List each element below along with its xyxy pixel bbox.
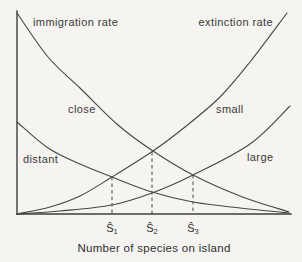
- extinction-small-curve: [17, 13, 287, 214]
- curve-label-small: small: [216, 103, 244, 115]
- island-biogeography-figure: Ŝ1Ŝ2Ŝ3 immigration rate extinction rate …: [0, 0, 302, 262]
- x-axis-caption: Number of species on island: [77, 242, 230, 254]
- immigration-rate-label: immigration rate: [33, 16, 118, 28]
- extinction-rate-label: extinction rate: [199, 16, 273, 28]
- curve-label-close: close: [68, 103, 96, 115]
- equilibrium-label-s3: Ŝ3: [187, 222, 199, 236]
- curve-label-distant: distant: [23, 153, 58, 165]
- curves-layer: [17, 13, 290, 214]
- equilibrium-label-s1: Ŝ1: [106, 222, 118, 236]
- immigration-close-curve: [17, 13, 289, 212]
- equilibrium-diagram: Ŝ1Ŝ2Ŝ3 immigration rate extinction rate …: [0, 0, 302, 262]
- equilibrium-label-s2: Ŝ2: [146, 222, 158, 236]
- equilibria-layer: Ŝ1Ŝ2Ŝ3: [106, 152, 199, 236]
- curve-label-large: large: [247, 151, 273, 163]
